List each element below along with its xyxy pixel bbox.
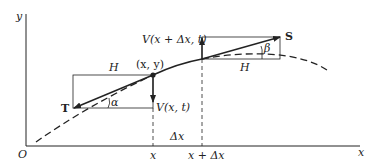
alpha-label: α — [111, 96, 119, 109]
H-right-label: H — [239, 61, 250, 74]
tick-x-label: x — [150, 149, 157, 162]
H-left-label: H — [108, 61, 119, 74]
x-axis-label: x — [358, 146, 365, 159]
T-label: T — [61, 102, 70, 115]
S-label: S — [285, 30, 293, 43]
V-left-label: V(x, t) — [156, 101, 190, 114]
tick-x-dx-label: x + Δx — [188, 149, 225, 162]
beta-label: β — [263, 42, 270, 55]
string-tension-diagram: y x O (x, y) H H T S α β V(x, t) V(x + Δ… — [0, 0, 381, 166]
y-axis-label: y — [15, 10, 23, 23]
point-xy — [150, 72, 155, 77]
dashed-curve-left — [36, 75, 153, 142]
delta-x-label: Δx — [169, 130, 185, 143]
point-label: (x, y) — [136, 58, 164, 71]
beta-arc — [261, 46, 262, 54]
dashed-curve-right — [202, 54, 327, 70]
V-right-label: V(x + Δx, t) — [142, 33, 207, 46]
origin-label: O — [18, 148, 27, 161]
alpha-arc — [108, 98, 110, 108]
